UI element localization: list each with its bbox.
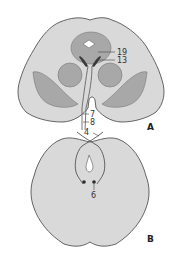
panel-b: 4 6 B <box>31 128 154 246</box>
right-round-mass <box>98 63 122 87</box>
callout-4: 4 <box>84 128 89 137</box>
left-nucleus <box>82 180 86 184</box>
section-b-outline <box>31 138 149 246</box>
anatomy-figure: 19 13 7 8 A 4 6 B <box>0 0 180 264</box>
callout-8: 8 <box>90 118 95 127</box>
left-round-mass <box>58 63 82 87</box>
callout-13: 13 <box>117 56 127 65</box>
panel-a: 19 13 7 8 A <box>18 18 164 132</box>
panel-label-a: A <box>147 122 154 132</box>
panel-label-b: B <box>147 234 154 244</box>
upper-oval <box>71 32 111 64</box>
leader-4 <box>93 133 99 136</box>
callout-6: 6 <box>91 191 96 200</box>
right-nucleus <box>92 180 96 184</box>
